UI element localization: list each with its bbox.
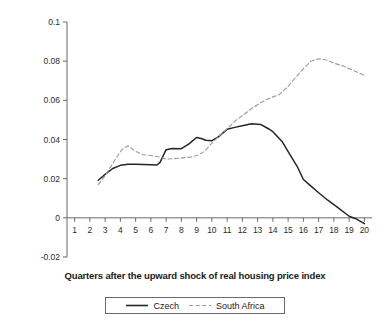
y-tick-label: 0.04 — [43, 135, 60, 145]
x-tick-label: 3 — [103, 225, 108, 235]
x-tick-label: 14 — [268, 225, 278, 235]
x-axis-ticks: 1234567891011121314151617181920 — [72, 218, 369, 235]
x-tick-label: 1 — [72, 225, 77, 235]
data-series — [98, 59, 364, 224]
legend-swatch-solid — [125, 302, 149, 309]
legend-label: Czech — [153, 301, 179, 311]
x-tick-label: 20 — [360, 225, 370, 235]
legend-swatch-dashed — [188, 302, 212, 309]
y-tick-label: 0.1 — [48, 17, 60, 27]
y-tick-label: 0 — [55, 213, 60, 223]
x-tick-label: 9 — [194, 225, 199, 235]
y-axis-ticks: 0.10.080.060.040.020-0.02 — [41, 17, 67, 262]
x-tick-label: 15 — [283, 225, 293, 235]
x-tick-label: 16 — [299, 225, 309, 235]
y-tick-label: 0.08 — [43, 56, 60, 66]
series-line-south-africa — [98, 59, 364, 185]
x-axis-title: Quarters after the upward shock of real … — [0, 270, 390, 281]
x-tick-label: 2 — [88, 225, 93, 235]
x-tick-label: 8 — [179, 225, 184, 235]
x-tick-label: 6 — [149, 225, 154, 235]
chart-figure: Logged real investment 0.10.080.060.040.… — [0, 0, 390, 324]
series-line-czech — [98, 124, 364, 224]
legend-label: South Africa — [216, 301, 265, 311]
y-tick-label: -0.02 — [41, 252, 61, 262]
x-tick-label: 4 — [118, 225, 123, 235]
x-tick-label: 11 — [223, 225, 232, 235]
legend-entry-south-africa[interactable]: South Africa — [188, 301, 265, 311]
x-tick-label: 5 — [133, 225, 138, 235]
x-tick-label: 17 — [314, 225, 324, 235]
x-tick-label: 7 — [164, 225, 169, 235]
x-tick-label: 13 — [253, 225, 263, 235]
x-tick-label: 19 — [344, 225, 354, 235]
axes — [67, 22, 372, 257]
chart-legend: CzechSouth Africa — [105, 297, 285, 314]
x-tick-label: 12 — [238, 225, 248, 235]
y-tick-label: 0.02 — [43, 174, 60, 184]
x-tick-label: 18 — [329, 225, 339, 235]
y-tick-label: 0.06 — [43, 95, 60, 105]
legend-entry-czech[interactable]: Czech — [125, 301, 179, 311]
x-tick-label: 10 — [207, 225, 217, 235]
